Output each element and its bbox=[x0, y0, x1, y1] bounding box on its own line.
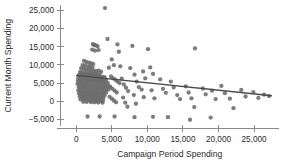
data-point bbox=[103, 6, 107, 10]
data-point bbox=[161, 87, 165, 91]
data-point bbox=[152, 96, 156, 100]
x-tick-label: 20,000 bbox=[206, 135, 231, 144]
data-point bbox=[231, 106, 235, 110]
data-point bbox=[148, 65, 152, 69]
data-point bbox=[228, 97, 232, 101]
x-tick-label: 10,000 bbox=[135, 135, 160, 144]
scatter-chart: −5,00005,00010,00015,00020,00025,000 05,… bbox=[0, 0, 282, 168]
data-point bbox=[134, 102, 138, 106]
data-point bbox=[117, 81, 121, 85]
data-point bbox=[132, 73, 136, 77]
data-point bbox=[123, 101, 127, 105]
data-point bbox=[209, 115, 213, 119]
data-point bbox=[96, 48, 100, 52]
y-tick-label: −5,000 bbox=[29, 115, 55, 124]
data-point bbox=[175, 93, 179, 97]
data-point bbox=[114, 100, 118, 104]
y-tick-label: 15,000 bbox=[29, 43, 54, 52]
y-axis-title: Current Month Spending bbox=[3, 19, 13, 113]
data-point bbox=[115, 42, 119, 46]
y-tick-label: 5,000 bbox=[34, 79, 55, 88]
data-point bbox=[141, 69, 145, 73]
data-point bbox=[192, 105, 196, 109]
data-point bbox=[112, 63, 116, 67]
data-point bbox=[117, 50, 121, 54]
chart-canvas: −5,00005,00010,00015,00020,00025,000 05,… bbox=[0, 0, 282, 168]
data-point bbox=[105, 37, 109, 41]
data-point bbox=[110, 57, 114, 61]
data-point bbox=[125, 105, 129, 109]
data-point bbox=[186, 90, 190, 94]
data-point bbox=[128, 66, 132, 70]
data-point bbox=[151, 72, 155, 76]
data-point bbox=[146, 47, 150, 51]
data-point bbox=[85, 100, 89, 104]
data-point bbox=[239, 88, 243, 92]
y-tick-label: 10,000 bbox=[29, 61, 54, 70]
data-point bbox=[178, 97, 182, 101]
data-point bbox=[139, 87, 143, 91]
y-axis-tick-labels: −5,00005,00010,00015,00020,00025,000 bbox=[29, 6, 55, 124]
data-point bbox=[189, 96, 193, 100]
data-point bbox=[115, 90, 119, 94]
x-axis-title: Campaign Period Spending bbox=[117, 149, 222, 159]
data-point bbox=[100, 101, 104, 105]
data-point bbox=[142, 95, 146, 99]
y-tick-label: 25,000 bbox=[29, 6, 54, 15]
data-point bbox=[132, 115, 136, 119]
data-point bbox=[223, 91, 227, 95]
data-point bbox=[121, 95, 125, 99]
data-point bbox=[164, 91, 168, 95]
data-point bbox=[193, 46, 197, 50]
data-point bbox=[85, 114, 89, 118]
data-point bbox=[158, 77, 162, 81]
y-tick-label: 0 bbox=[49, 97, 54, 106]
data-point bbox=[107, 66, 111, 70]
data-point bbox=[143, 76, 147, 80]
x-tick-label: 0 bbox=[74, 135, 79, 144]
data-point bbox=[256, 96, 260, 100]
data-point bbox=[130, 44, 134, 48]
data-point bbox=[166, 115, 170, 119]
data-point bbox=[219, 84, 223, 88]
x-axis-tick-labels: 05,00010,00015,00020,00025,000 bbox=[74, 135, 267, 144]
data-point bbox=[204, 92, 208, 96]
data-point bbox=[95, 44, 99, 48]
data-point bbox=[126, 89, 130, 93]
x-tick-label: 25,000 bbox=[242, 135, 267, 144]
scatter-points bbox=[75, 6, 271, 122]
data-point bbox=[112, 114, 116, 118]
data-point bbox=[149, 88, 153, 92]
data-point bbox=[97, 114, 101, 118]
y-tick-label: 20,000 bbox=[29, 24, 54, 33]
data-point bbox=[118, 64, 122, 68]
data-point bbox=[188, 118, 192, 122]
data-point bbox=[214, 97, 218, 101]
data-point bbox=[243, 94, 247, 98]
data-point bbox=[169, 79, 173, 83]
data-point bbox=[132, 93, 136, 97]
x-tick-label: 15,000 bbox=[170, 135, 195, 144]
data-point bbox=[96, 100, 100, 104]
x-tick-label: 5,000 bbox=[101, 135, 122, 144]
data-point bbox=[151, 115, 155, 119]
